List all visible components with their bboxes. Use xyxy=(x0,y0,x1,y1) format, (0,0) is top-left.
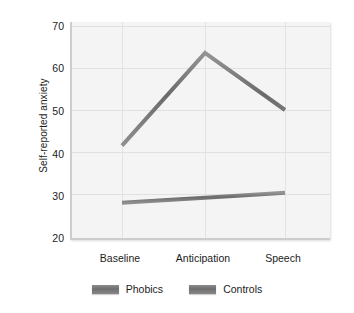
x-tick-label-baseline: Baseline xyxy=(100,252,140,264)
series-line-controls xyxy=(122,193,285,203)
x-tick-label-speech: Speech xyxy=(265,252,301,264)
plot-area xyxy=(70,22,330,240)
y-tick-label-50: 50 xyxy=(38,105,64,117)
x-tick-label-anticipation: Anticipation xyxy=(176,252,230,264)
y-tick-label-30: 30 xyxy=(38,190,64,202)
chart-figure: Self-reported anxiety 70 60 50 40 30 20 xyxy=(0,0,354,313)
y-tick-label-20: 20 xyxy=(38,232,64,244)
plot-inner xyxy=(72,22,330,238)
y-tick-label-40: 40 xyxy=(38,148,64,160)
y-tick-label-70: 70 xyxy=(38,20,64,32)
legend-swatch-icon-controls xyxy=(189,285,216,294)
chart-legend: Phobics Controls xyxy=(0,283,354,295)
legend-item-controls: Controls xyxy=(189,283,262,295)
legend-label-controls: Controls xyxy=(223,283,262,295)
y-tick-label-60: 60 xyxy=(38,62,64,74)
series-line-phobics xyxy=(122,53,285,146)
legend-swatch-icon-phobics xyxy=(92,285,119,294)
legend-item-phobics: Phobics xyxy=(92,283,163,295)
series-lines xyxy=(72,22,332,240)
x-axis-tick-labels: Baseline Anticipation Speech xyxy=(0,252,354,268)
legend-label-phobics: Phobics xyxy=(126,283,163,295)
